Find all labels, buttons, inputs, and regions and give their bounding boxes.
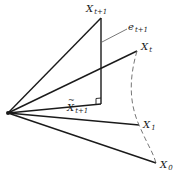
label-base-with-tilde: X bbox=[67, 103, 74, 113]
projection-diagram bbox=[0, 0, 175, 180]
label-subscript: 0 bbox=[168, 164, 172, 172]
label-x-t-plus-1: Xt+1 bbox=[86, 4, 107, 16]
label-subscript: t bbox=[149, 46, 152, 54]
label-x-t: Xt bbox=[141, 42, 152, 54]
label-base: X bbox=[160, 159, 167, 170]
dashed-trajectory-curve bbox=[131, 51, 156, 163]
label-x-tilde-t-plus-1: Xt+1 bbox=[67, 103, 88, 115]
label-subscript: t+1 bbox=[75, 107, 88, 115]
label-base: X bbox=[86, 3, 93, 14]
origin-point bbox=[6, 111, 10, 115]
ray-to-x-t-plus-1 bbox=[8, 18, 101, 113]
label-subscript: t+1 bbox=[135, 26, 148, 34]
label-e-t-plus-1: et+1 bbox=[128, 22, 148, 34]
label-x-0: X0 bbox=[160, 160, 173, 172]
label-subscript: 1 bbox=[151, 124, 155, 132]
label-subscript: t+1 bbox=[94, 8, 107, 16]
label-base: X bbox=[141, 41, 148, 52]
label-x-1: X1 bbox=[143, 120, 156, 132]
label-base: e bbox=[128, 21, 134, 32]
ray-to-x-0 bbox=[8, 113, 156, 163]
error-label-leader bbox=[102, 29, 127, 42]
label-base: X bbox=[143, 119, 150, 130]
